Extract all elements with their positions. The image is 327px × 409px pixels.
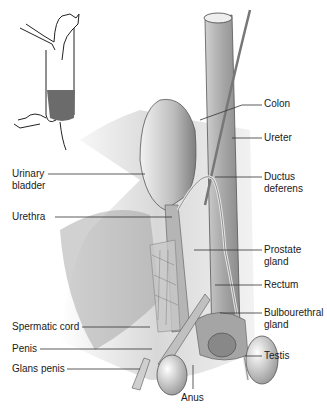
label-urethra: Urethra (12, 211, 45, 223)
anatomy-diagram: Colon Ureter Ductus deferens Urinary bla… (0, 0, 327, 409)
label-glans-penis: Glans penis (12, 363, 65, 375)
label-urinary-bladder-line1: Urinary (12, 168, 44, 180)
label-anus: Anus (181, 392, 204, 404)
label-bulbourethral-gland-line1: Bulbourethral (264, 307, 323, 319)
label-colon: Colon (264, 98, 290, 110)
label-prostate-gland-line1: Prostate (264, 244, 301, 256)
label-ductus-deferens-line2: deferens (264, 183, 303, 195)
label-ductus-deferens-line1: Ductus (264, 171, 295, 183)
cat-inset-icon (14, 14, 79, 150)
label-prostate-gland-line2: gland (264, 256, 288, 268)
label-rectum: Rectum (264, 279, 298, 291)
label-spermatic-cord: Spermatic cord (12, 321, 79, 333)
label-penis: Penis (12, 343, 37, 355)
label-urinary-bladder-line2: bladder (12, 180, 45, 192)
testis-left (157, 355, 187, 395)
label-testis: Testis (264, 350, 290, 362)
anatomy-illustration (0, 0, 327, 409)
pelvic-region-highlight (47, 90, 75, 121)
label-bulbourethral-gland-line2: gland (264, 319, 288, 331)
label-ureter: Ureter (264, 132, 292, 144)
